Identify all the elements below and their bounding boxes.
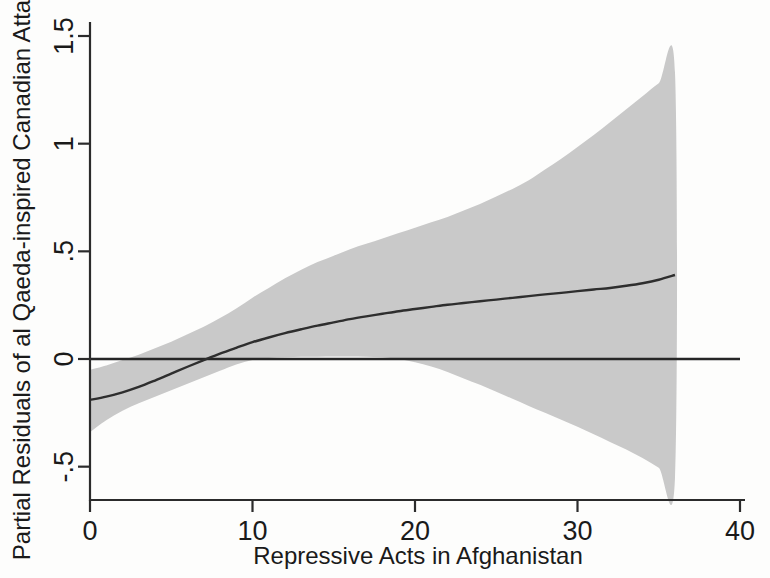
y-tick-label: 1.5 bbox=[49, 17, 79, 55]
y-tick-label: .5 bbox=[49, 240, 79, 263]
x-axis-title: Repressive Acts in Afghanistan bbox=[253, 542, 583, 569]
y-axis-title: Partial Residuals of al Qaeda-inspired C… bbox=[8, 0, 35, 560]
y-tick-label: 1 bbox=[49, 136, 79, 151]
x-tick-label: 0 bbox=[82, 516, 97, 546]
partial-residual-plot: 010203040 -.50.511.5 Repressive Acts in … bbox=[0, 0, 770, 578]
x-tick-label: 40 bbox=[725, 516, 755, 546]
y-tick-label: -.5 bbox=[49, 451, 79, 483]
figure-container: 010203040 -.50.511.5 Repressive Acts in … bbox=[0, 0, 770, 578]
y-tick-label: 0 bbox=[49, 351, 79, 366]
